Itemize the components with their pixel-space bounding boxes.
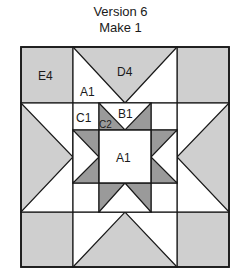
quilt-block-diagram: E4 D4 A1 C1 B1 C2 A1 bbox=[0, 0, 241, 272]
inner-corner-bottom-right bbox=[151, 183, 177, 212]
label-inner-goose: B1 bbox=[118, 107, 133, 121]
label-outer-goose: D4 bbox=[117, 65, 133, 79]
label-corner: E4 bbox=[38, 69, 53, 83]
corner-square-top-right bbox=[177, 47, 229, 103]
inner-corner-bottom-left bbox=[73, 183, 99, 212]
inner-corner-top-right bbox=[151, 103, 177, 130]
corner-square-bottom-left bbox=[21, 212, 73, 267]
label-inner-corner: C1 bbox=[76, 111, 92, 125]
label-inner-goose-point: C2 bbox=[99, 119, 112, 130]
label-center: A1 bbox=[116, 151, 131, 165]
label-outer-goose-bg: A1 bbox=[80, 85, 95, 99]
corner-square-bottom-right bbox=[177, 212, 229, 267]
